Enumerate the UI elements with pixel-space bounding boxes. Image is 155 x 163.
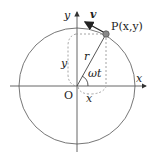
circular-motion-diagram: y v P(x,y) r y ωt x O x	[0, 0, 155, 163]
angle-label: ωt	[88, 67, 102, 80]
velocity-label: v	[90, 8, 97, 21]
y-projection-label: y	[60, 57, 68, 70]
x-projection-label: x	[86, 92, 93, 105]
point-label: P(x,y)	[111, 20, 143, 33]
y-axis-label: y	[63, 9, 71, 22]
radius-label: r	[84, 50, 90, 63]
origin-label: O	[64, 89, 73, 102]
y-brace	[68, 34, 76, 86]
point-p	[103, 31, 109, 37]
x-axis-label: x	[136, 72, 143, 85]
